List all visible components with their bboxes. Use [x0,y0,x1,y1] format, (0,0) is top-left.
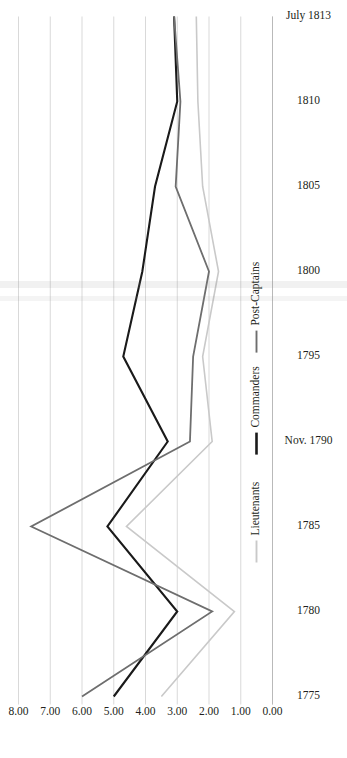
y-tick-label: 0.00 [262,705,282,717]
legend-label-post-captains: Post-Captains [249,261,262,325]
plot-area: 0.001.002.003.004.005.006.007.008.00 177… [0,0,347,758]
legend-label-lieutenants: Lieutenants [249,481,261,535]
y-axis-tick-labels: 0.001.002.003.004.005.006.007.008.00 [8,705,282,717]
x-tick-label: 1805 [297,179,320,191]
series-line-post-captains [31,16,212,696]
y-tick-label: 3.00 [167,705,187,717]
rotated-chart-container: 0.001.002.003.004.005.006.007.008.00 177… [0,0,347,758]
gridlines-group [18,16,272,704]
y-tick-label: 4.00 [135,705,155,717]
series-line-commanders [107,16,177,696]
x-tick-label: July 1813 [285,9,330,22]
x-tick-label: 1795 [297,349,320,361]
y-tick-label: 2.00 [198,705,218,717]
x-tick-label: 1785 [297,519,320,531]
y-tick-label: 7.00 [40,705,60,717]
series-group [31,16,234,696]
y-tick-label: 5.00 [103,705,123,717]
y-tick-label: 8.00 [8,705,28,717]
y-tick-label: 1.00 [230,705,250,717]
legend: LieutenantsCommandersPost-Captains [249,261,262,562]
x-tick-label: 1810 [297,94,320,106]
x-axis-tick-labels: 177517801785Nov. 17901795180018051810Jul… [284,9,332,701]
x-tick-label: 1800 [297,264,320,276]
x-tick-label: 1780 [297,604,320,616]
chart-figure: 0.001.002.003.004.005.006.007.008.00 177… [0,0,347,758]
line-chart-svg: 0.001.002.003.004.005.006.007.008.00 177… [0,0,347,758]
x-tick-label: Nov. 1790 [284,434,332,446]
x-tick-label: 1775 [297,689,320,701]
y-tick-label: 6.00 [71,705,91,717]
legend-label-commanders: Commanders [249,365,261,427]
